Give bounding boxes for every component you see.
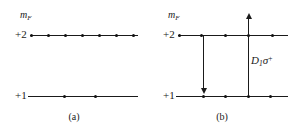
panel-a-level-plus1-dot (63, 95, 66, 98)
transition-label-main: D (251, 54, 259, 66)
panel-b-level-plus1-dot (269, 95, 272, 98)
panel-b-level-label-plus2: +2 (163, 29, 175, 40)
decay-arrow-head-down-icon (201, 88, 207, 94)
pump-arrow-stem (248, 19, 249, 96)
panel-b-level-plus1-dot (224, 95, 227, 98)
energy-level-diagram-figure: mF +2 +1 (a) mF +2 +1 (0, 0, 296, 129)
panel-a-level-plus2-dot (98, 34, 101, 37)
panel-b-level-plus2-dot (224, 34, 227, 37)
panel-a-level-plus2-dot (47, 34, 50, 37)
panel-b-level-plus2-dot (178, 34, 181, 37)
panel-a-level-line-plus1 (28, 96, 138, 97)
panel-a-level-plus2-dot (132, 34, 135, 37)
transition-label-d1-sigma-plus: D1σ+ (251, 55, 272, 68)
panel-a-level-label-plus1: +1 (15, 90, 27, 101)
panel-a-level-label-plus2: +2 (15, 29, 27, 40)
panel-b-level-plus1-dot (202, 95, 205, 98)
panel-b: mF +2 +1 D1σ+ (b) (148, 0, 296, 129)
panel-a-level-plus2-dot (115, 34, 118, 37)
panel-b-axis-label: mF (168, 10, 180, 22)
panel-a-axis-label-subscript: F (27, 14, 31, 22)
panel-a-caption: (a) (0, 112, 148, 122)
decay-arrow-stem (203, 35, 204, 90)
panel-a: mF +2 +1 (a) (0, 0, 148, 129)
panel-a-level-plus2-dot (30, 34, 33, 37)
panel-b-level-plus2-dot (271, 34, 274, 37)
panel-a-axis-label: mF (20, 10, 32, 22)
transition-label-superscript: + (268, 54, 272, 63)
panel-b-caption: (b) (148, 112, 296, 122)
panel-b-axis-label-subscript: F (175, 14, 179, 22)
panel-a-level-plus1-dot (94, 95, 97, 98)
panel-a-level-plus2-dot (81, 34, 84, 37)
panel-a-level-plus2-dot (64, 34, 67, 37)
pump-arrow-head-up-icon (246, 13, 252, 19)
panel-b-level-label-plus1: +1 (163, 90, 175, 101)
